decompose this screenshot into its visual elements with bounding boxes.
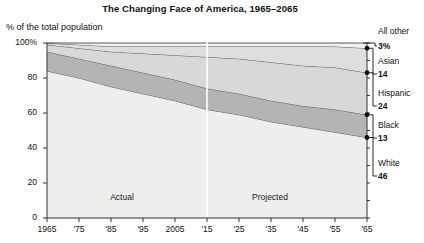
series-label-black: Black: [378, 120, 399, 130]
series-label-white: White: [378, 158, 400, 168]
series-value-asian: 14: [378, 69, 387, 79]
series-value-hispanic: 24: [378, 101, 387, 111]
end-leader-line: [367, 138, 377, 177]
series-value-black: 13: [378, 133, 387, 143]
series-label-hispanic: Hispanic: [378, 88, 411, 98]
y-tick-label: 40: [7, 142, 37, 152]
x-tick-label: '65: [350, 224, 384, 234]
series-value-all-other: 3%: [378, 41, 390, 51]
series-label-asian: Asian: [378, 56, 399, 66]
end-leader-line: [367, 48, 377, 74]
series-label-all-other: All other: [378, 26, 409, 36]
x-tick-label: '85: [94, 224, 128, 234]
chart-plot: [0, 0, 424, 243]
x-tick-label: '35: [254, 224, 288, 234]
x-tick-label: '15: [190, 224, 224, 234]
x-tick-label: '25: [222, 224, 256, 234]
x-tick-label: '45: [286, 224, 320, 234]
x-tick-label: 1965: [30, 224, 64, 234]
annotation-projected: Projected: [235, 192, 305, 202]
end-leader-line: [367, 115, 377, 138]
y-tick-label: 60: [7, 107, 37, 117]
y-tick-label: 100%: [7, 37, 37, 47]
y-tick-label: 20: [7, 177, 37, 187]
annotation-actual: Actual: [87, 192, 157, 202]
y-tick-label: 0: [7, 212, 37, 222]
x-tick-label: '75: [62, 224, 96, 234]
series-value-white: 46: [378, 171, 387, 181]
y-tick-label: 80: [7, 72, 37, 82]
chart-container: The Changing Face of America, 1965–2065 …: [0, 0, 424, 243]
x-tick-label: '55: [318, 224, 352, 234]
x-tick-label: '95: [126, 224, 160, 234]
x-tick-label: 2005: [158, 224, 192, 234]
